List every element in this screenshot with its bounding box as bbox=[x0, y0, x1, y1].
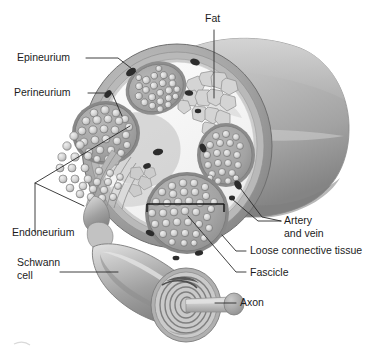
label-artery-line2: and vein bbox=[284, 227, 324, 239]
label-loose-connective-tissue: Loose connective tissue bbox=[250, 244, 362, 256]
label-schwann-cell-line2: cell bbox=[17, 269, 33, 281]
label-fat: Fat bbox=[205, 12, 220, 24]
label-perineurium: Perineurium bbox=[14, 86, 71, 98]
fascicle-lower-center bbox=[145, 172, 229, 254]
label-axon: Axon bbox=[240, 296, 264, 308]
nerve-diagram-figure: Fat Epineurium Perineurium Endoneurium S… bbox=[0, 0, 371, 353]
fascicle-left-cut bbox=[72, 101, 140, 165]
label-endoneurium: Endoneurium bbox=[12, 226, 75, 238]
leader-loose-connective-tissue bbox=[222, 235, 246, 251]
illustration-canvas: Fat Epineurium Perineurium Endoneurium S… bbox=[0, 0, 371, 353]
label-epineurium: Epineurium bbox=[17, 51, 70, 63]
label-artery-line1: Artery bbox=[284, 214, 313, 226]
page-artifact-mark bbox=[14, 342, 30, 345]
label-schwann-cell-line1: Schwann bbox=[17, 256, 60, 268]
label-fascicle: Fascicle bbox=[250, 266, 289, 278]
